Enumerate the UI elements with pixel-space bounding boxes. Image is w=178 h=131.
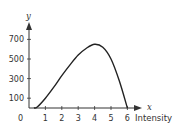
y-tick-label: 700	[9, 35, 24, 44]
x-tick-label: 3	[76, 114, 81, 123]
x-tick-label: 5	[108, 114, 113, 123]
x-ticks: 123456	[43, 106, 130, 123]
x-tick-label: 2	[59, 114, 64, 123]
line-chart: y x Intensity 123456 100300500700 0	[0, 0, 178, 131]
y-axis-arrow-icon	[26, 22, 32, 30]
x-axis-title: Intensity	[135, 113, 172, 123]
y-axis-letter: y	[25, 11, 31, 21]
origin-label: 0	[18, 114, 23, 123]
x-tick-label: 1	[43, 114, 48, 123]
x-tick-label: 6	[125, 114, 130, 123]
x-axis-arrow-icon	[134, 105, 142, 111]
x-axis: x Intensity	[29, 102, 172, 123]
y-tick-label: 100	[9, 94, 24, 103]
y-axis: y	[25, 11, 32, 108]
x-tick-label: 4	[92, 114, 97, 123]
data-curve	[34, 44, 127, 108]
y-ticks: 100300500700	[9, 35, 31, 103]
y-tick-label: 300	[9, 75, 24, 84]
x-axis-letter: x	[147, 102, 152, 112]
y-tick-label: 500	[9, 55, 24, 64]
